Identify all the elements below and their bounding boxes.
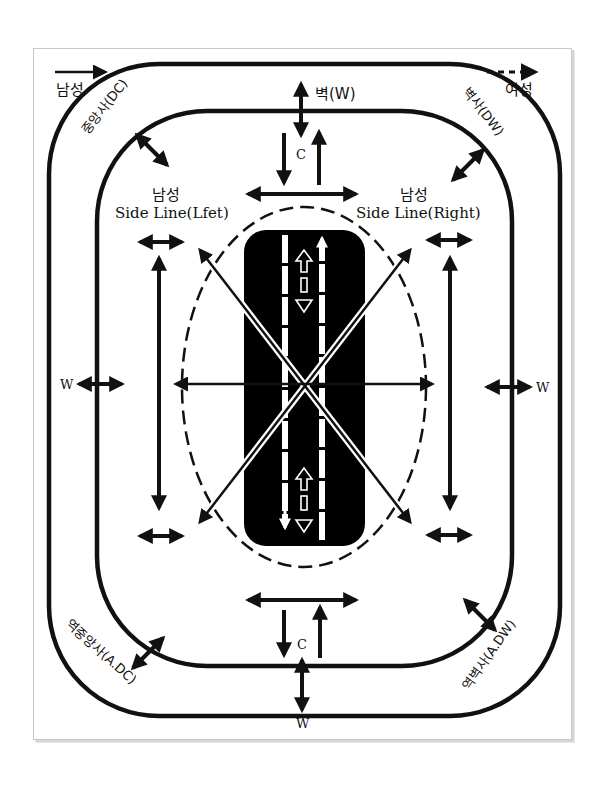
legend-women-label: 여성 bbox=[505, 83, 533, 98]
bottom-wall-label: W bbox=[296, 717, 309, 730]
left-wall-label: W bbox=[60, 378, 73, 391]
right-wall-label: W bbox=[536, 381, 549, 394]
dc-arrow bbox=[137, 135, 167, 165]
dw-arrow bbox=[453, 150, 483, 180]
top-center-label: C bbox=[296, 148, 306, 161]
side-right-title: 남성 bbox=[400, 188, 428, 203]
bottom-center-label: C bbox=[297, 638, 307, 651]
side-left-subtitle: Side Line(Lfet) bbox=[115, 206, 229, 221]
legend-men-label: 남성 bbox=[56, 83, 84, 98]
side-right-subtitle: Side Line(Right) bbox=[356, 206, 481, 221]
side-left-title: 남성 bbox=[152, 188, 180, 203]
adw-arrow bbox=[465, 600, 495, 630]
top-wall-label: 벽(W) bbox=[315, 87, 356, 102]
